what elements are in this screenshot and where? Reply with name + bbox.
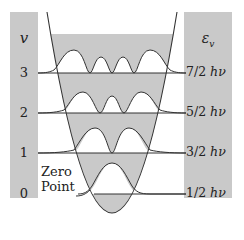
energy-level-2: 5/2 hν: [186, 106, 232, 119]
energy-fraction: 1/2: [186, 185, 206, 200]
quantum-number-2: 2: [10, 106, 38, 119]
zero-point-line1: Zero: [41, 164, 75, 179]
energy-unit: hν: [210, 104, 226, 119]
energy-unit: hν: [210, 64, 226, 79]
energy-level-1: 3/2 hν: [186, 146, 232, 159]
energy-fraction: 3/2: [186, 144, 206, 159]
energy-unit: hν: [210, 144, 226, 159]
energy-level-0: 1/2 hν: [186, 187, 232, 200]
energy-level-3: 7/2 hν: [186, 66, 232, 79]
energy-header: εv: [184, 31, 232, 49]
quantum-number-1: 1: [10, 146, 38, 159]
energy-fraction: 5/2: [186, 104, 206, 119]
quantum-number-0: 0: [10, 187, 38, 200]
quantum-number-header: v: [10, 31, 38, 46]
zero-point-line2: Point: [41, 179, 75, 194]
energy-fraction: 7/2: [186, 64, 206, 79]
energy-unit: hν: [210, 185, 226, 200]
quantum-number-3: 3: [10, 66, 38, 79]
zero-point-label: Zero Point: [41, 164, 75, 194]
energy-subscript: v: [209, 39, 214, 49]
